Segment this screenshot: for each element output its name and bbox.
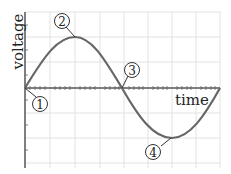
plot-area: 1 2 3 4 [0,0,231,174]
marker-1: 1 [25,88,48,112]
marker-4: 4 [146,138,172,160]
svg-text:2: 2 [58,15,66,29]
y-axis-label: voltage [11,12,26,72]
svg-text:4: 4 [149,146,157,160]
sine-wave-diagram: 1 2 3 4 voltage time [0,0,231,174]
svg-text:1: 1 [36,98,44,112]
marker-3: 3 [122,63,140,89]
svg-text:3: 3 [128,64,136,78]
x-axis-label: time [175,93,209,108]
marker-2: 2 [55,14,76,38]
